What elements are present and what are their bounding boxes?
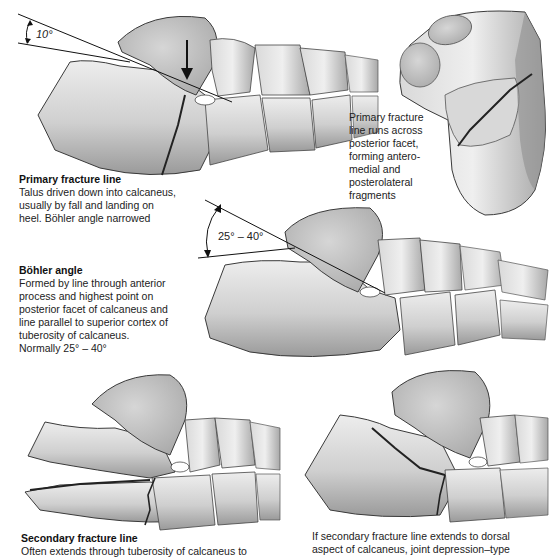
caption-primary-fracture: Primary fracture line Talus driven down …: [19, 173, 176, 225]
caption-bohler-angle: Böhler angle Formed by line through ante…: [19, 264, 168, 355]
calcaneus-bone-normal: [205, 261, 400, 357]
caption-title: Secondary fracture line: [21, 532, 247, 545]
panel-secondary-fracture: [25, 375, 280, 530]
caption-joint-depression: If secondary fracture line extends to do…: [312, 530, 510, 556]
angle-label-bohler: 25° – 40°: [218, 230, 264, 242]
caption-secondary-fracture: Secondary fracture line Often extends th…: [21, 532, 247, 558]
panel-joint-depression: [305, 371, 548, 522]
caption-superior-view: Primary fracture line runs across poster…: [349, 111, 424, 202]
caption-title: Böhler angle: [19, 264, 168, 277]
panel-bohler-angle: [198, 200, 548, 357]
angle-label-10: 10°: [36, 28, 53, 40]
panel-primary-fracture: [18, 14, 378, 175]
caption-title: Primary fracture line: [19, 173, 176, 186]
